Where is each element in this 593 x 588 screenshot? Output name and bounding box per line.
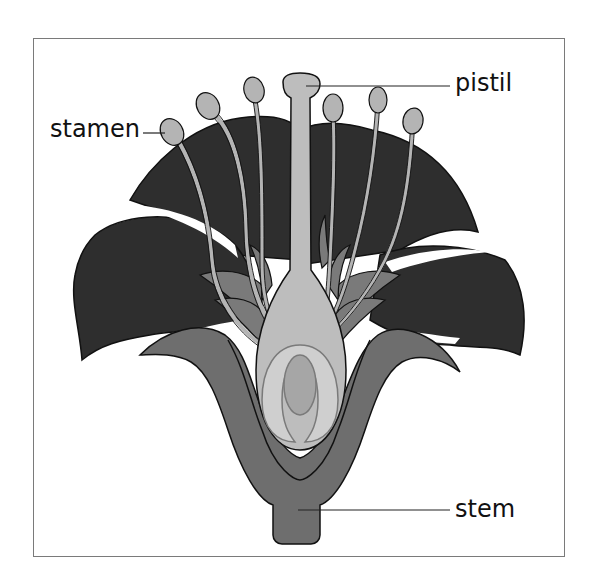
pistil-label: pistil (455, 71, 512, 95)
stamen-label: stamen (50, 117, 140, 141)
stem-label: stem (455, 497, 515, 521)
